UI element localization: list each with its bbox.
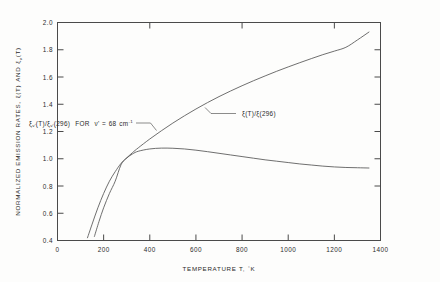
unit-cm: cm: [119, 120, 128, 127]
plot-frame: [58, 23, 381, 241]
xi-total-annotation-text: ξ(T)/ξ(296): [242, 110, 276, 118]
x-axis-title-kelvin: K: [251, 265, 256, 272]
svg-text:TEMPERATURE T,°K: TEMPERATURE T,°K: [183, 265, 256, 272]
x-tick-label: 1400: [372, 246, 388, 253]
xi-numerator: (T): [245, 110, 254, 118]
xi-total-annotation: ξ(T)/ξ(296): [205, 108, 276, 119]
y-axis-ticks: [58, 23, 64, 241]
x-tick-label: 400: [144, 246, 156, 253]
x-tick-label: 1000: [280, 246, 296, 253]
x-tick-label: 600: [190, 246, 202, 253]
chart-figure: 2.0 1.8 1.6 1.4 1.2 1.0 0.8 0.6 0.4: [0, 0, 440, 282]
y-tick-label: 0.8: [43, 183, 53, 190]
xi-total-leader: [205, 108, 236, 114]
x-axis-title: TEMPERATURE T,°K: [183, 265, 256, 272]
y-tick-label: 1.0: [43, 155, 53, 162]
nu-prime-symbol: ν': [95, 120, 100, 127]
nu-value: 68: [109, 120, 117, 127]
curve-path-xi-total: [87, 32, 368, 238]
y-axis-title: NORMALIZED EMISSION RATES,ξ(T)ANDξν(T): [14, 47, 23, 215]
xi-nu-annotation-text: ξν'(T)/ξν'(296)FORν'=68cm-1: [29, 119, 133, 128]
svg-text:NORMALIZED EMISSION RATES,ξ(T): NORMALIZED EMISSION RATES,ξ(T)ANDξν(T): [14, 47, 23, 215]
y-tick-label: 1.4: [43, 101, 53, 108]
y-tick-label: 1.2: [43, 128, 53, 135]
y-axis-arg-1: (T): [14, 85, 21, 95]
y-axis-title-pre: NORMALIZED EMISSION RATES,: [14, 101, 21, 215]
xi-nu-leader: [136, 123, 157, 131]
x-axis-ticks: [104, 235, 335, 241]
x-axis-top-ticks: [150, 23, 335, 29]
x-tick-label: 800: [236, 246, 248, 253]
y-tick-label: 0.6: [43, 210, 53, 217]
curve-path-xi-nu: [94, 148, 369, 236]
x-axis-tick-labels: 0 200 400 600 800 1000 1200 1400: [55, 246, 388, 253]
y-tick-label: 0.4: [43, 237, 53, 244]
y-axis-title-and: AND: [14, 67, 21, 82]
y-axis-right-ticks: [375, 50, 381, 186]
x-tick-label: 200: [98, 246, 110, 253]
y-tick-label: 1.6: [43, 74, 53, 81]
x-tick-label: 1200: [326, 246, 342, 253]
curve-xi-nu: [94, 148, 369, 236]
y-axis-tick-labels: 2.0 1.8 1.6 1.4 1.2 1.0 0.8 0.6 0.4: [43, 19, 53, 244]
xi-nu-numerator: (T): [36, 120, 45, 128]
y-tick-label: 1.8: [43, 46, 53, 53]
x-tick-label: 0: [55, 246, 59, 253]
y-tick-label: 2.0: [43, 19, 53, 26]
curve-xi-total: [87, 32, 368, 238]
unit-exponent: -1: [128, 119, 133, 124]
equals-sign: =: [102, 120, 106, 127]
y-axis-arg-2: (T): [14, 47, 21, 57]
x-axis-title-main: TEMPERATURE T,: [183, 265, 246, 272]
chart-svg: 2.0 1.8 1.6 1.4 1.2 1.0 0.8 0.6 0.4: [0, 0, 440, 282]
xi-nu-denom: (296): [54, 120, 70, 128]
xi-nu-for-text: FOR: [75, 120, 89, 127]
xi-denom: (296): [259, 110, 275, 118]
